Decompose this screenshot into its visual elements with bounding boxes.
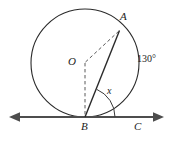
label-point-a: A <box>120 11 127 22</box>
label-point-b: B <box>81 121 88 132</box>
geometry-figure: A O B C x 130° <box>0 0 174 145</box>
chord-ba-line <box>85 31 120 118</box>
label-point-c: C <box>134 121 141 132</box>
label-arc-angle-130: 130° <box>137 54 156 64</box>
tangent-right-arrowhead <box>153 112 164 122</box>
label-unknown-angle-x: x <box>107 86 111 96</box>
label-center-o: O <box>68 56 76 67</box>
radius-oa-dashed-line <box>86 31 120 63</box>
tangent-left-arrowhead <box>9 112 20 122</box>
